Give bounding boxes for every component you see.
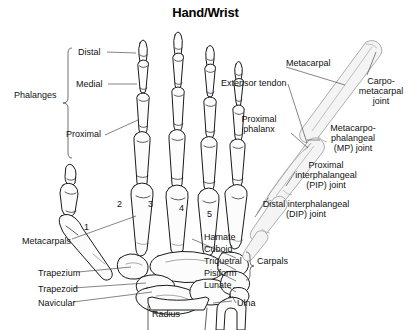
label-hamate: Hamate [204, 232, 236, 242]
label-carpals: Carpals [257, 256, 288, 266]
label-medial: Medial [76, 79, 103, 89]
finger-2 [131, 40, 153, 256]
metacarpal-number-1: 1 [84, 222, 89, 232]
finger-3 [166, 32, 188, 256]
label-cuboid: Cuboid [204, 244, 233, 254]
metacarpal-number-2: 2 [117, 199, 122, 209]
label-trapezoid: Trapezoid [38, 284, 78, 294]
label-proximal: Proximal [66, 129, 101, 139]
label-carpo-metacarpal-joint: Carpo- metacarpal joint [353, 76, 409, 106]
metacarpal-number-5: 5 [207, 209, 212, 219]
label-pip-joint: Proximal interphalangeal (PIP) joint [283, 160, 369, 190]
label-triquetral: Triquetral [204, 256, 242, 266]
label-metacarpals: Metacarpals [22, 236, 71, 246]
label-navicular: Navicular [38, 298, 76, 308]
label-radius: Radius [152, 309, 180, 319]
label-dip-joint: Distal interphalangeal (DIP) joint [246, 199, 366, 219]
finger-5 [225, 62, 247, 250]
metacarpal-number-3: 3 [148, 199, 153, 209]
label-lunate: Lunate [204, 280, 232, 290]
metacarpal-number-4: 4 [179, 203, 184, 213]
label-ulna: Ulna [237, 298, 256, 308]
label-extensor-tendon: Extensor tendon [221, 78, 287, 88]
finger-4 [198, 46, 219, 257]
label-proximal-phalanx: Proximal phalanx [228, 114, 290, 134]
label-trapezium: Trapezium [38, 268, 80, 278]
label-metacarpal: Metacarpal [286, 58, 331, 68]
diagram-root: Hand/Wrist .bone{fill:#fcfcfc;stroke:#1a… [0, 0, 411, 330]
label-distal: Distal [78, 47, 101, 57]
label-pisiform: Pisiform [204, 268, 237, 278]
label-mp-joint: Metacarpo- phalangeal (MP) joint [318, 123, 388, 153]
label-phalanges: Phalanges [14, 90, 57, 100]
